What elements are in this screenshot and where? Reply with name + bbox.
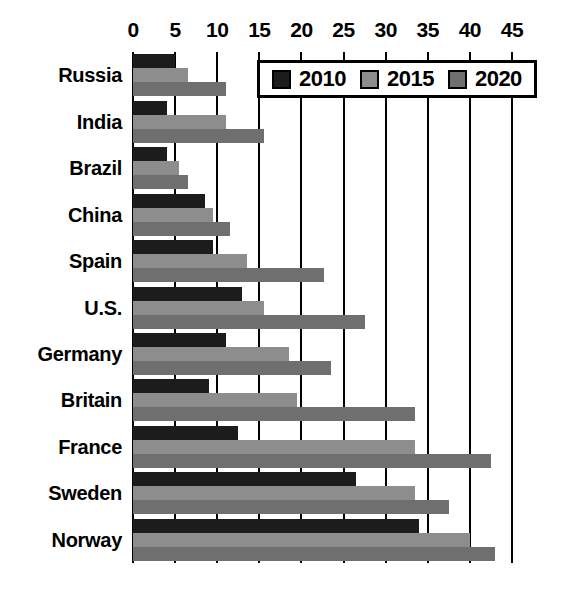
bar-china-2010 bbox=[133, 194, 205, 208]
x-tick-label: 30 bbox=[374, 18, 396, 42]
bar-chart: 051015202530354045 RussiaIndiaBrazilChin… bbox=[0, 0, 569, 591]
y-tick-label-russia: Russia bbox=[58, 64, 122, 87]
bar-britain-2015 bbox=[133, 393, 297, 407]
bar-spain-2015 bbox=[133, 254, 247, 268]
legend: 201020152020 bbox=[257, 60, 537, 98]
legend-label: 2010 bbox=[299, 66, 346, 92]
legend-swatch-2010 bbox=[272, 70, 291, 89]
bar-france-2010 bbox=[133, 426, 238, 440]
bar-britain-2010 bbox=[133, 379, 209, 393]
y-tick-label-china: China bbox=[68, 203, 122, 226]
bar-us-2015 bbox=[133, 301, 264, 315]
bar-spain-2020 bbox=[133, 268, 324, 282]
bar-us-2020 bbox=[133, 315, 365, 329]
legend-entry-2020[interactable]: 2020 bbox=[448, 66, 522, 92]
y-tick-label-brazil: Brazil bbox=[69, 157, 122, 180]
y-tick-label-spain: Spain bbox=[69, 250, 122, 273]
x-axis: 051015202530354045 bbox=[0, 18, 569, 44]
bar-germany-2010 bbox=[133, 333, 226, 347]
bar-india-2015 bbox=[133, 115, 226, 129]
legend-entry-2015[interactable]: 2015 bbox=[360, 66, 434, 92]
bar-spain-2010 bbox=[133, 240, 213, 254]
bar-brazil-2015 bbox=[133, 161, 179, 175]
x-tick-label: 45 bbox=[501, 18, 523, 42]
y-tick-label-sweden: Sweden bbox=[48, 482, 122, 505]
legend-label: 2015 bbox=[387, 66, 434, 92]
y-tick-label-france: France bbox=[58, 435, 122, 458]
x-tick-label: 25 bbox=[332, 18, 354, 42]
x-tick-label: 20 bbox=[290, 18, 312, 42]
gridline bbox=[427, 52, 429, 563]
bar-germany-2020 bbox=[133, 361, 331, 375]
plot-area bbox=[133, 52, 512, 563]
y-tick-label-britain: Britain bbox=[61, 389, 122, 412]
bar-sweden-2020 bbox=[133, 500, 449, 514]
bar-germany-2015 bbox=[133, 347, 289, 361]
bar-sweden-2015 bbox=[133, 486, 415, 500]
bar-russia-2015 bbox=[133, 68, 188, 82]
y-tick-label-india: India bbox=[77, 110, 122, 133]
bar-china-2015 bbox=[133, 208, 213, 222]
legend-swatch-2020 bbox=[448, 70, 467, 89]
x-tick-label: 10 bbox=[206, 18, 228, 42]
x-tick-label: 5 bbox=[170, 18, 181, 42]
legend-label: 2020 bbox=[475, 66, 522, 92]
bar-brazil-2010 bbox=[133, 147, 167, 161]
legend-entry-2010[interactable]: 2010 bbox=[272, 66, 346, 92]
bar-sweden-2010 bbox=[133, 472, 356, 486]
y-tick-label-germany: Germany bbox=[37, 342, 122, 365]
bar-russia-2020 bbox=[133, 82, 226, 96]
x-tick-label: 35 bbox=[417, 18, 439, 42]
gridline bbox=[469, 52, 471, 563]
gridline bbox=[511, 52, 513, 563]
x-tick-label: 0 bbox=[127, 18, 138, 42]
bar-india-2010 bbox=[133, 101, 167, 115]
bar-brazil-2020 bbox=[133, 175, 188, 189]
legend-swatch-2015 bbox=[360, 70, 379, 89]
bar-france-2015 bbox=[133, 440, 415, 454]
bar-us-2010 bbox=[133, 287, 242, 301]
x-tick-label: 15 bbox=[248, 18, 270, 42]
bar-russia-2010 bbox=[133, 54, 175, 68]
bar-norway-2010 bbox=[133, 519, 419, 533]
bar-france-2020 bbox=[133, 454, 491, 468]
y-tick-label-us: U.S. bbox=[84, 296, 122, 319]
bar-india-2020 bbox=[133, 129, 264, 143]
x-tick-label: 40 bbox=[459, 18, 481, 42]
bar-britain-2020 bbox=[133, 407, 415, 421]
y-tick-label-norway: Norway bbox=[52, 528, 122, 551]
bar-china-2020 bbox=[133, 222, 230, 236]
bar-norway-2015 bbox=[133, 533, 470, 547]
bar-norway-2020 bbox=[133, 547, 495, 561]
